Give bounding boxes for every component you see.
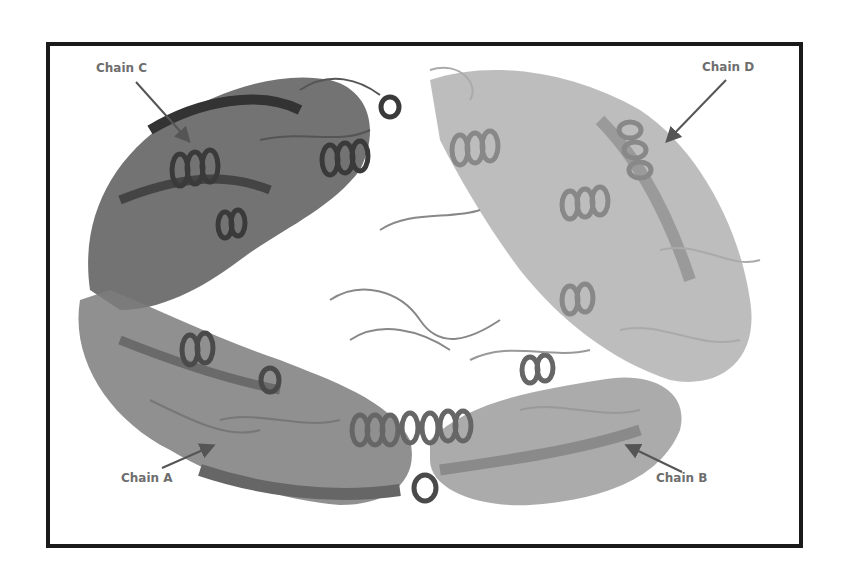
chain-d-label: Chain D (702, 60, 754, 74)
protein-ribbon-structure (0, 0, 849, 582)
chain-c-ribbon (88, 77, 399, 310)
chain-a-label: Chain A (121, 471, 173, 485)
chain-d-ribbon (430, 68, 760, 382)
chain-c-label: Chain C (96, 61, 147, 75)
central-loops (330, 210, 500, 350)
chain-b-label: Chain B (656, 471, 707, 485)
arrow-chain-d (668, 80, 726, 140)
